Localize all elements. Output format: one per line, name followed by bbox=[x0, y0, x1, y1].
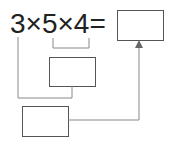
line-from-3 bbox=[18, 37, 72, 98]
bracket-5-4 bbox=[53, 38, 89, 48]
line-to-result bbox=[68, 47, 139, 120]
connector-lines bbox=[0, 0, 171, 147]
arrow-up-icon bbox=[135, 40, 143, 48]
